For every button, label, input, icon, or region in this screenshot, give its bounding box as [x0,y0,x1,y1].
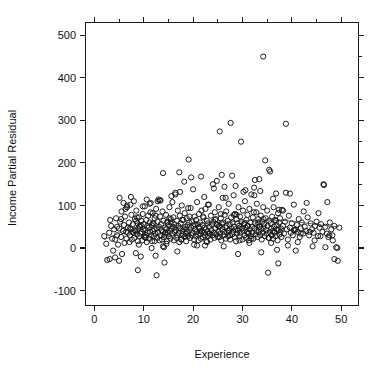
y-axis-tick-label: 400 [58,72,76,84]
x-axis-tick-label: 40 [286,313,298,325]
y-axis-tick-label: 300 [58,114,76,126]
y-axis-tick-label: 200 [58,157,76,169]
scatter-plot-figure: 01020304050-1000100200300400500 Experien… [0,0,377,368]
y-axis-tick-label: 100 [58,200,76,212]
x-axis-tick-label: 10 [138,313,150,325]
y-axis-tick-label: 0 [70,242,76,254]
x-axis-tick-label: 20 [187,313,199,325]
plot-canvas: 01020304050-1000100200300400500 Experien… [0,0,377,368]
y-axis-title: Income Partial Residual [6,110,18,226]
y-axis-tick-label: -100 [54,285,76,297]
y-axis-tick-label: 500 [58,29,76,41]
x-axis-title: Experience [194,348,249,360]
x-axis-tick-label: 0 [91,313,97,325]
x-axis-tick-label: 50 [335,313,347,325]
x-axis-tick-label: 30 [236,313,248,325]
